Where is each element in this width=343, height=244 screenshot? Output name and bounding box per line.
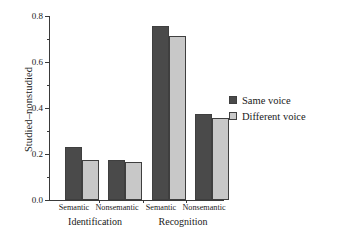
legend-label-0: Same voice bbox=[242, 95, 291, 106]
bar-chart: Studied–nonstudied 0.00.20.40.60.8 Seman… bbox=[0, 0, 343, 244]
x-tick-1 bbox=[143, 200, 144, 203]
y-tick-label-4: 0.8 bbox=[32, 12, 43, 21]
y-tick-label-1: 0.2 bbox=[32, 150, 43, 159]
bar-0-series-0 bbox=[65, 147, 82, 200]
y-tick-major-0 bbox=[45, 200, 49, 201]
legend-item-1: Different voice bbox=[229, 108, 306, 124]
x-category-label-3: Nonsemantic bbox=[182, 203, 225, 213]
x-axis-line bbox=[49, 200, 224, 201]
bar-2-series-1 bbox=[169, 36, 186, 200]
bar-3-series-0 bbox=[195, 114, 212, 200]
y-tick-label-3: 0.6 bbox=[32, 58, 43, 67]
x-group-label-identification: Identification bbox=[68, 216, 122, 228]
bar-1-series-0 bbox=[108, 160, 125, 200]
legend-label-1: Different voice bbox=[242, 111, 306, 122]
legend: Same voiceDifferent voice bbox=[229, 92, 306, 124]
bar-3-series-1 bbox=[212, 118, 229, 200]
bar-2-series-0 bbox=[152, 26, 169, 200]
bars-layer bbox=[49, 16, 223, 200]
x-category-label-0: Semantic bbox=[59, 203, 89, 213]
plot-area: 0.00.20.40.60.8 Semantic Nonsemantic Sem… bbox=[49, 16, 223, 200]
bar-0-series-1 bbox=[82, 160, 99, 200]
legend-swatch-icon-1 bbox=[229, 112, 237, 120]
x-group-label-recognition: Recognition bbox=[159, 216, 208, 228]
legend-swatch-icon-0 bbox=[229, 96, 237, 104]
y-tick-label-0: 0.0 bbox=[32, 196, 43, 205]
x-category-label-2: Semantic bbox=[146, 203, 176, 213]
y-tick-label-2: 0.4 bbox=[32, 104, 43, 113]
x-category-label-1: Nonsemantic bbox=[95, 203, 138, 213]
legend-item-0: Same voice bbox=[229, 92, 306, 108]
bar-1-series-1 bbox=[125, 162, 142, 200]
